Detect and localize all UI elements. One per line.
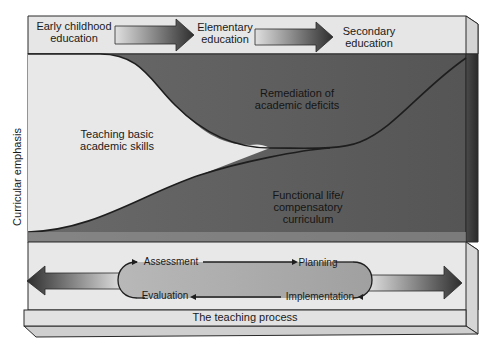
stage-label-elementary: Elementary education bbox=[193, 21, 257, 45]
stage-label-early-childhood: Early childhood education bbox=[30, 20, 118, 44]
stage-label-line1: Early childhood bbox=[36, 20, 111, 32]
stage-label-secondary: Secondary education bbox=[333, 25, 405, 49]
step-implementation: Implementation bbox=[280, 291, 360, 303]
education-curriculum-diagram: Early childhood education Elementary edu… bbox=[0, 0, 490, 357]
stage-label-line2: education bbox=[50, 32, 98, 44]
y-axis-label: Curricular emphasis bbox=[10, 122, 24, 232]
stage-label-line2: education bbox=[345, 37, 393, 49]
step-assessment: Assessment bbox=[138, 256, 204, 268]
region-label-line2: academic deficits bbox=[255, 99, 339, 111]
teaching-process-title: The teaching process bbox=[180, 311, 310, 323]
region-label-remediation: Remediation of academic deficits bbox=[252, 87, 342, 111]
region-label-basic-skills: Teaching basic academic skills bbox=[74, 128, 160, 152]
region-label-line2: compensatory bbox=[273, 201, 342, 213]
stage-label-line2: education bbox=[201, 33, 249, 45]
stage-label-line1: Secondary bbox=[343, 25, 396, 37]
region-label-functional: Functional life/ compensatory curriculum bbox=[268, 189, 348, 225]
region-label-line1: Functional life/ bbox=[273, 189, 344, 201]
region-label-line1: Teaching basic bbox=[81, 128, 154, 140]
step-evaluation: Evaluation bbox=[138, 290, 192, 302]
region-label-line2: academic skills bbox=[80, 140, 154, 152]
diagram-graphic bbox=[0, 0, 490, 357]
stage-label-line1: Elementary bbox=[197, 21, 253, 33]
step-planning: Planning bbox=[296, 257, 340, 269]
region-label-line3: curriculum bbox=[283, 213, 334, 225]
region-label-line1: Remediation of bbox=[260, 87, 334, 99]
